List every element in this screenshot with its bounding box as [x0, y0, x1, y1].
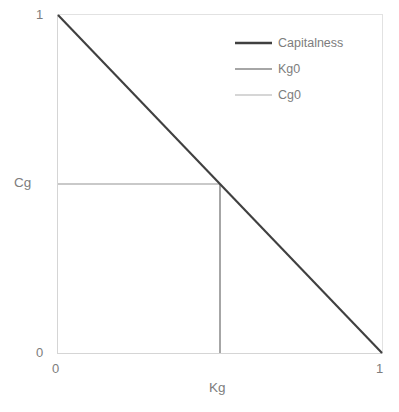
x-axis-tick-max: 1 — [376, 362, 383, 375]
legend-label-capitalness: Capitalness — [278, 37, 343, 50]
legend-label-kg0: Kg0 — [278, 63, 300, 76]
y-axis-tick-min: 0 — [36, 346, 43, 359]
chart-legend: Capitalness Kg0 Cg0 — [235, 30, 385, 108]
legend-label-cg0: Cg0 — [278, 89, 301, 102]
legend-item-cg0: Cg0 — [235, 82, 385, 108]
legend-item-capitalness: Capitalness — [235, 30, 385, 56]
y-axis-tick-max: 1 — [36, 8, 43, 21]
legend-swatch-kg0-icon — [235, 65, 272, 73]
chart-container: 1 0 0 1 Cg Kg Capitalness Kg0 — [0, 0, 399, 412]
legend-swatch-cg0-icon — [235, 91, 272, 99]
x-axis-title: Kg — [209, 381, 226, 395]
legend-swatch-capitalness-icon — [235, 39, 272, 47]
y-axis-title: Cg — [14, 176, 31, 190]
x-axis-tick-min: 0 — [52, 362, 59, 375]
legend-item-kg0: Kg0 — [235, 56, 385, 82]
